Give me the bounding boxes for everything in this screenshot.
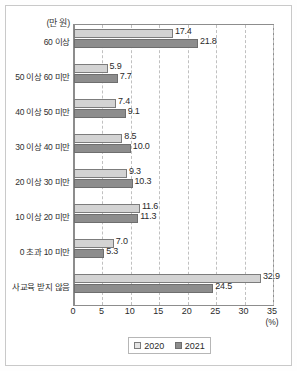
bar-value-label: 11.3	[140, 211, 156, 221]
bar-value-label: 10.0	[133, 141, 150, 151]
chart-row: 20 이상 30 미만9.310.3	[74, 166, 273, 201]
bar-value-label: 7.0	[116, 236, 128, 246]
chart-legend: 20202021	[128, 337, 211, 354]
x-tick-label: 20	[182, 306, 192, 316]
chart-row: 60 이상17.421.8	[74, 26, 273, 61]
x-tick-label: 10	[125, 306, 135, 316]
bar-2020-20 이상 30 미만	[74, 169, 127, 178]
chart-row: 10 이상 20 미만11.611.3	[74, 201, 273, 236]
category-label: 10 이상 20 미만	[1, 210, 70, 222]
bar-2021-20 이상 30 미만	[74, 179, 133, 188]
unit-label: (만 원)	[0, 16, 70, 29]
bar-2021-0 초과 10 미만	[74, 249, 104, 258]
legend-item-2020[interactable]: 2020	[134, 341, 164, 351]
bar-2021-60 이상	[74, 39, 198, 48]
gridline-35	[273, 25, 274, 305]
chart-row: 30 이상 40 미만8.510.0	[74, 131, 273, 166]
bar-value-label: 24.5	[215, 281, 232, 291]
bar-2021-10 이상 20 미만	[74, 214, 138, 223]
chart-row: 0 초과 10 미만7.05.3	[74, 236, 273, 271]
x-axis: (%) 05101520253035	[73, 306, 273, 330]
bar-2020-60 이상	[74, 29, 173, 38]
bar-2021-30 이상 40 미만	[74, 144, 131, 153]
bar-value-label: 7.4	[118, 96, 130, 106]
category-label: 사교육 받지 않음	[1, 280, 70, 292]
chart-row: 사교육 받지 않음32.924.5	[74, 271, 273, 306]
bar-value-label: 17.4	[175, 26, 192, 36]
bar-2020-40 이상 50 미만	[74, 99, 116, 108]
bar-value-label: 21.8	[200, 36, 217, 46]
category-label: 50 이상 60 미만	[1, 70, 70, 82]
bar-2021-40 이상 50 미만	[74, 109, 126, 118]
category-label: 30 이상 40 미만	[1, 140, 70, 152]
bar-2020-50 이상 60 미만	[74, 64, 108, 73]
legend-swatch-icon	[134, 342, 141, 349]
bar-value-label: 5.9	[110, 61, 122, 71]
bar-2021-사교육 받지 않음	[74, 284, 213, 293]
x-tick-label: 5	[99, 306, 104, 316]
x-tick-label: 30	[239, 306, 249, 316]
bar-value-label: 7.7	[120, 71, 132, 81]
x-axis-unit: (%)	[265, 317, 278, 327]
legend-label: 2021	[185, 341, 205, 351]
bar-value-label: 32.9	[263, 271, 280, 281]
bar-value-label: 8.5	[124, 131, 136, 141]
chart-figure: (만 원) 60 이상17.421.850 이상 60 미만5.97.740 이…	[0, 0, 297, 371]
legend-item-2021[interactable]: 2021	[175, 341, 205, 351]
x-tick-label: 0	[70, 306, 75, 316]
category-label: 20 이상 30 미만	[1, 175, 70, 187]
bar-value-label: 10.3	[135, 176, 152, 186]
bar-2020-사교육 받지 않음	[74, 274, 261, 283]
legend-swatch-icon	[175, 342, 182, 349]
x-tick-label: 35	[267, 306, 277, 316]
category-label: 0 초과 10 미만	[1, 245, 70, 257]
legend-label: 2020	[144, 341, 164, 351]
x-tick-label: 25	[210, 306, 220, 316]
bar-value-label: 5.3	[106, 246, 118, 256]
bar-2020-30 이상 40 미만	[74, 134, 122, 143]
chart-row: 40 이상 50 미만7.49.1	[74, 96, 273, 131]
category-label: 60 이상	[1, 35, 70, 47]
bar-2020-10 이상 20 미만	[74, 204, 140, 213]
x-tick-label: 15	[153, 306, 163, 316]
plot-area: 60 이상17.421.850 이상 60 미만5.97.740 이상 50 미…	[73, 24, 274, 306]
category-label: 40 이상 50 미만	[1, 105, 70, 117]
bar-value-label: 9.1	[128, 106, 140, 116]
chart-row: 50 이상 60 미만5.97.7	[74, 61, 273, 96]
bar-value-label: 11.6	[142, 201, 158, 211]
bar-value-label: 9.3	[129, 166, 141, 176]
bar-2021-50 이상 60 미만	[74, 74, 118, 83]
